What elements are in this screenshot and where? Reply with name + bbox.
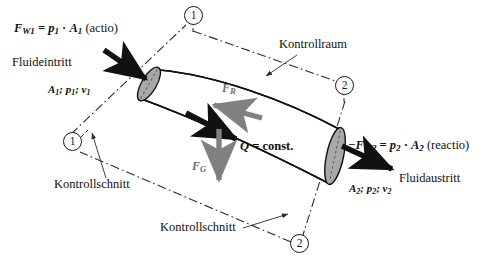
force-w2-equation: −FW2 = p2 · A2 (reactio)	[348, 139, 469, 153]
outlet-properties: A2; p2; v2	[349, 183, 391, 196]
control-section-left-label: Kontrollschnitt	[54, 178, 130, 191]
section-marker-2-right: 2	[335, 76, 354, 95]
gravity-force-label: FG	[192, 160, 206, 174]
marker-stem-1-left	[81, 130, 88, 137]
section-marker-1-top: 1	[184, 6, 203, 25]
outlet-label: Fluidaustritt	[399, 172, 460, 185]
inlet-properties: A1; p1; v1	[48, 84, 90, 97]
flow-rate-value: = const.	[249, 139, 293, 153]
force-w2-subscript: W2	[364, 143, 377, 153]
force-w2-multiply: ·	[401, 138, 411, 152]
force-w1-subscript: W1	[22, 26, 35, 36]
force-w2-equals: =	[376, 138, 389, 152]
force-w1-equation: FW1 = p1 · A1 (actio)	[14, 22, 118, 36]
control-section-bottom-label: Kontrollschnitt	[160, 221, 236, 234]
inlet-velocity-subscript: 1	[86, 88, 90, 97]
force-w1-arrow	[104, 50, 146, 79]
friction-force-symbol: F	[222, 81, 230, 95]
outlet-velocity-subscript: 2	[387, 187, 391, 196]
kontrollschnitt-bottom-leader	[243, 214, 288, 228]
force-w1-equals: =	[35, 21, 48, 35]
friction-force-subscript: R	[230, 86, 236, 96]
section-marker-1-left: 1	[63, 132, 82, 151]
flow-rate-symbol: Q	[240, 139, 249, 153]
pipe-body	[139, 70, 339, 184]
gravity-force-symbol: F	[192, 159, 200, 173]
fluid-control-volume-diagram: FW1 = p1 · A1 (actio) Fluideintritt A1; …	[0, 0, 487, 262]
flow-rate-label: Q = const.	[240, 140, 293, 153]
inlet-label: Fluideintritt	[12, 56, 72, 69]
force-w1-area: A	[69, 21, 77, 35]
kontrollschnitt-left-leader	[92, 133, 106, 178]
gravity-force-subscript: G	[200, 164, 206, 174]
diagram-canvas	[0, 0, 487, 262]
force-w1-multiply: ·	[59, 21, 69, 35]
section-marker-2-bottom: 2	[290, 234, 309, 253]
force-w2-symbol: −F	[348, 138, 364, 152]
force-w1-note: (actio)	[82, 21, 118, 35]
force-w2-note: (reactio)	[424, 138, 469, 152]
friction-force-label: FR	[222, 82, 236, 96]
control-volume-label: Kontrollraum	[279, 38, 347, 51]
